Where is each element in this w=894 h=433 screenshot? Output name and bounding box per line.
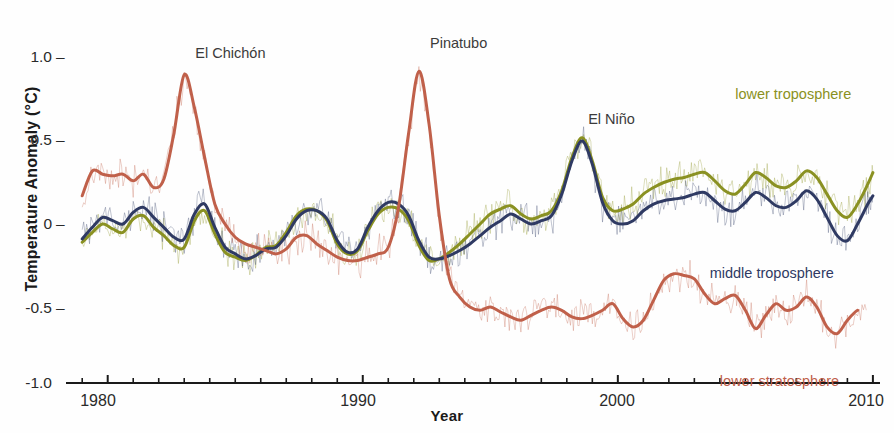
annotation-el-nino: El Niño [588, 111, 635, 127]
chart-figure: Temperature Anomaly (°C) 1.0 0.5 0 -0.5 … [0, 0, 894, 433]
plot-area [0, 0, 894, 433]
annotation-pinatubo: Pinatubo [430, 35, 487, 51]
series-label-middle-troposphere: middle troposphere [710, 265, 834, 281]
x-axis-title: Year [0, 407, 894, 424]
series-label-lower-troposphere: lower troposphere [735, 86, 851, 102]
annotation-el-chichon: El Chichón [195, 45, 265, 61]
series-label-lower-stratosphere: lower stratosphere [720, 373, 839, 389]
